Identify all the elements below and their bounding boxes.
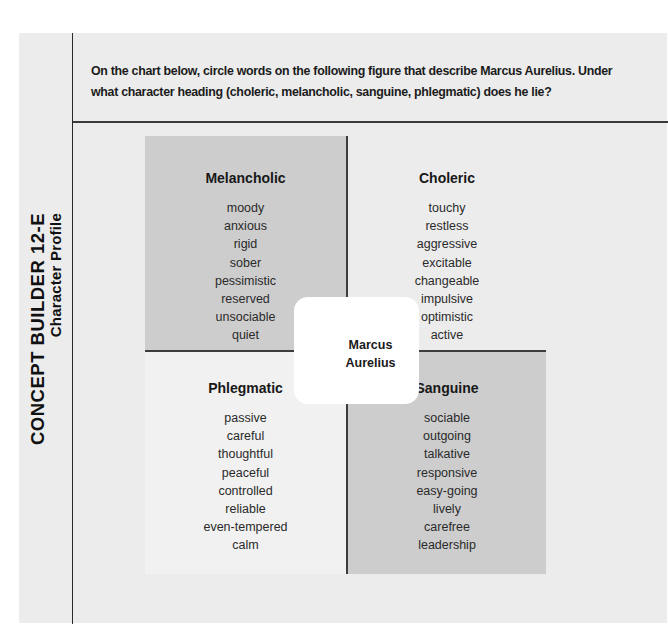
- trait-word[interactable]: reliable: [145, 500, 346, 518]
- trait-word[interactable]: rigid: [145, 235, 346, 253]
- concept-builder-title: CONCEPT BUILDER 12-E: [28, 212, 48, 444]
- center-name-box: Marcus Aurelius: [294, 297, 419, 404]
- trait-word[interactable]: calm: [145, 536, 346, 554]
- trait-word[interactable]: excitable: [348, 254, 546, 272]
- center-name-line1: Marcus: [345, 336, 395, 354]
- trait-word[interactable]: even-tempered: [145, 518, 346, 536]
- trait-word[interactable]: carefree: [348, 518, 546, 536]
- center-name: Marcus Aurelius: [345, 336, 395, 372]
- trait-word[interactable]: aggressive: [348, 235, 546, 253]
- trait-word[interactable]: sober: [145, 254, 346, 272]
- trait-word[interactable]: controlled: [145, 482, 346, 500]
- trait-word[interactable]: moody: [145, 199, 346, 217]
- trait-word[interactable]: sociable: [348, 409, 546, 427]
- center-name-line2: Aurelius: [345, 354, 395, 372]
- trait-word[interactable]: peaceful: [145, 464, 346, 482]
- trait-word[interactable]: leadership: [348, 536, 546, 554]
- trait-word[interactable]: changeable: [348, 272, 546, 290]
- sidebar-title-block: CONCEPT BUILDER 12-E Character Profile: [19, 33, 72, 624]
- instruction-text: On the chart below, circle words on the …: [91, 61, 631, 103]
- trait-word[interactable]: lively: [348, 500, 546, 518]
- trait-word[interactable]: outgoing: [348, 427, 546, 445]
- trait-word[interactable]: thoughtful: [145, 445, 346, 463]
- trait-word[interactable]: anxious: [145, 217, 346, 235]
- trait-word[interactable]: pessimistic: [145, 272, 346, 290]
- quadrant-heading: Melancholic: [145, 170, 346, 186]
- quadrant-heading: Choleric: [348, 170, 546, 186]
- trait-word[interactable]: touchy: [348, 199, 546, 217]
- header-divider: [73, 121, 668, 123]
- trait-word[interactable]: careful: [145, 427, 346, 445]
- trait-word[interactable]: responsive: [348, 464, 546, 482]
- trait-word[interactable]: passive: [145, 409, 346, 427]
- trait-word[interactable]: easy-going: [348, 482, 546, 500]
- trait-word[interactable]: restless: [348, 217, 546, 235]
- character-profile-subtitle: Character Profile: [48, 212, 64, 444]
- trait-word[interactable]: talkative: [348, 445, 546, 463]
